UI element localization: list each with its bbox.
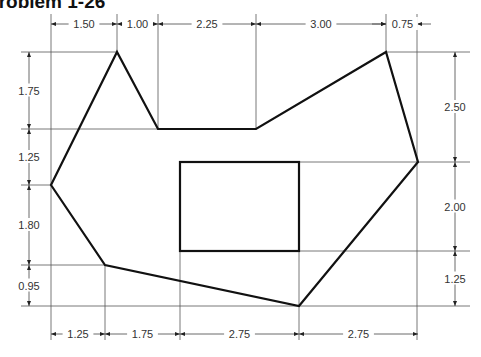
dimension-value: 2.00 <box>444 201 465 213</box>
dimension-labels: 1.501.002.253.000.751.251.752.752.751.75… <box>14 17 471 340</box>
outer-outline <box>51 52 418 306</box>
dimension-value: 1.00 <box>127 18 148 30</box>
dimension-value: 0.75 <box>392 18 413 30</box>
dimension-value: 1.50 <box>73 18 94 30</box>
dimension-value: 1.25 <box>67 328 88 340</box>
dimension-value: 1.75 <box>132 328 153 340</box>
dimension-value: 1.75 <box>18 85 39 97</box>
part-geometry <box>51 52 418 306</box>
dimension-value: 0.95 <box>18 280 39 292</box>
dimension-value: 1.25 <box>18 151 39 163</box>
dimension-value: 2.75 <box>229 328 250 340</box>
dimension-value: 2.75 <box>348 328 369 340</box>
dimension-value: 2.25 <box>196 18 217 30</box>
technical-drawing: 1.501.002.253.000.751.251.752.752.751.75… <box>0 0 481 357</box>
dimension-value: 3.00 <box>310 18 331 30</box>
extension-lines <box>21 14 470 340</box>
dimension-value: 1.25 <box>444 273 465 285</box>
dimension-value: 2.50 <box>444 101 465 113</box>
dimension-value: 1.80 <box>18 219 39 231</box>
inner-rectangle <box>180 162 299 251</box>
